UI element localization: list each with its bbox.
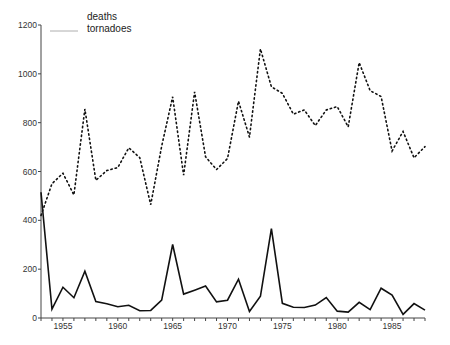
x-tick-label: 1965 (163, 321, 182, 331)
series-tornadoes-line (41, 49, 425, 216)
y-tick-label: 0 (32, 313, 37, 323)
series-deaths-line (41, 192, 425, 314)
y-tick-label: 1000 (18, 69, 37, 79)
y-tick-label: 1200 (18, 20, 37, 30)
x-tick-label: 1970 (218, 321, 237, 331)
y-tick-label: 800 (23, 118, 37, 128)
x-tick-label: 1980 (328, 321, 347, 331)
plot-area: 0200400600800100012001955196019651970197… (0, 0, 450, 345)
y-tick-label: 600 (23, 167, 37, 177)
x-tick-label: 1960 (108, 321, 127, 331)
legend-deaths-label: deaths (87, 11, 117, 23)
y-tick-label: 200 (23, 264, 37, 274)
chart: 0200400600800100012001955196019651970197… (0, 0, 450, 345)
x-tick-label: 1975 (273, 321, 292, 331)
legend-tornadoes-label: tornadoes (87, 23, 131, 35)
x-tick-label: 1985 (383, 321, 402, 331)
y-tick-label: 400 (23, 215, 37, 225)
x-tick-label: 1955 (53, 321, 72, 331)
